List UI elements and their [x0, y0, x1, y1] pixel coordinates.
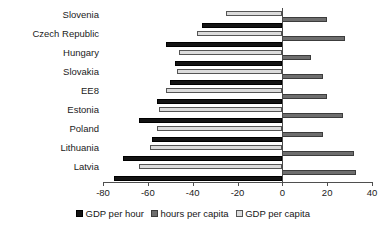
x-axis-tick-label: -60 [131, 187, 165, 198]
x-axis-tick [238, 182, 239, 186]
bar-gdp-per-capita-hungary [179, 50, 282, 55]
category-label: Czech Republic [0, 29, 99, 39]
category-label: Slovakia [0, 67, 99, 77]
bar-hours-per-capita-slovenia [282, 17, 327, 22]
category-label: Poland [0, 124, 99, 134]
x-axis-tick-label: 0 [265, 187, 299, 198]
bar-gdp-per-capita-ee8 [166, 88, 283, 93]
legend-item-hours-per-capita[interactable]: hours per capita [151, 208, 229, 219]
bar-gdp-per-capita-czech-republic [197, 31, 282, 36]
chart-legend: GDP per hourhours per capitaGDP per capi… [0, 208, 386, 219]
bar-hours-per-capita-slovakia [282, 74, 322, 79]
bar-gdp-per-capita-estonia [159, 107, 282, 112]
x-axis-tick-label: -80 [86, 187, 120, 198]
legend-swatch-icon [151, 210, 158, 217]
bar-gdp-per-capita-poland [157, 126, 283, 131]
zero-axis-line [282, 8, 283, 182]
legend-swatch-icon [76, 210, 83, 217]
bar-hours-per-capita-lithuania [282, 151, 354, 156]
category-label: Lithuania [0, 143, 99, 153]
bar-gdp-per-hour-slovenia [202, 23, 283, 28]
x-axis-tick-label: -20 [221, 187, 255, 198]
x-axis-tick [193, 182, 194, 186]
x-axis-tick-label: 40 [355, 187, 386, 198]
x-axis-tick-label: -40 [176, 187, 210, 198]
bar-gdp-per-hour-ee8 [157, 99, 283, 104]
x-axis-tick [282, 182, 283, 186]
category-label: EE8 [0, 86, 99, 96]
bar-hours-per-capita-hungary [282, 55, 311, 60]
bar-hours-per-capita-latvia [282, 170, 356, 175]
legend-label: hours per capita [161, 208, 229, 219]
bar-gdp-per-capita-lithuania [150, 145, 282, 150]
bar-gdp-per-hour-estonia [139, 118, 282, 123]
category-label: Latvia [0, 162, 99, 172]
bar-gdp-per-capita-slovenia [226, 11, 282, 16]
x-axis-tick-label: 20 [310, 187, 344, 198]
category-axis-labels: SloveniaCzech RepublicHungarySlovakiaEE8… [0, 10, 99, 182]
x-axis-tick [372, 182, 373, 186]
legend-label: GDP per hour [86, 208, 144, 219]
bar-gdp-per-hour-slovakia [170, 80, 282, 85]
x-axis-tick [327, 182, 328, 186]
legend-item-gdp-per-hour[interactable]: GDP per hour [76, 208, 144, 219]
bar-hours-per-capita-estonia [282, 113, 343, 118]
bar-gdp-per-hour-latvia [114, 176, 282, 181]
bar-hours-per-capita-ee8 [282, 94, 327, 99]
bar-gdp-per-hour-hungary [175, 61, 283, 66]
bar-gdp-per-hour-lithuania [123, 156, 282, 161]
bar-gdp-per-capita-slovakia [177, 69, 282, 74]
plot-area [103, 10, 372, 182]
legend-item-gdp-per-capita[interactable]: GDP per capita [236, 208, 310, 219]
bar-gdp-per-hour-poland [152, 137, 282, 142]
legend-swatch-icon [236, 210, 243, 217]
x-axis-tick [148, 182, 149, 186]
bar-hours-per-capita-czech-republic [282, 36, 345, 41]
bar-gdp-per-capita-latvia [139, 164, 282, 169]
x-axis-tick [103, 182, 104, 186]
bar-chart: SloveniaCzech RepublicHungarySlovakiaEE8… [0, 0, 386, 227]
category-label: Slovenia [0, 10, 99, 20]
category-label: Estonia [0, 105, 99, 115]
category-label: Hungary [0, 48, 99, 58]
bar-gdp-per-hour-czech-republic [166, 42, 283, 47]
legend-label: GDP per capita [245, 208, 310, 219]
bar-hours-per-capita-poland [282, 132, 322, 137]
